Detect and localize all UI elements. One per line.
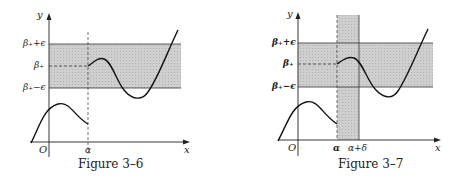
band-lower-label: β₊−ϵ [272,82,296,91]
band-upper-label: β₊+ϵ [23,39,46,48]
curve-left-piece [31,104,88,143]
figure-caption: Figure 3–7 [338,158,404,170]
delta-strip [337,15,359,140]
origin-label: O [288,143,296,153]
alpha-label: α [333,144,340,153]
band-middle-label: β₊ [34,61,44,70]
alpha-plus-delta-label: α+δ [348,144,367,153]
epsilon-band [298,43,433,87]
origin-label: O [39,145,47,155]
band-lower-label: β₊−ϵ [23,83,46,92]
alpha-label: α [85,146,91,155]
band-middle-label: β₊ [283,59,294,68]
figure-caption: Figure 3–6 [78,158,144,170]
x-axis-label: x [435,143,441,153]
y-axis-arrow-icon [296,12,301,19]
band-upper-label: β₊+ϵ [272,38,296,47]
curve-left-piece [278,102,337,141]
figure-3-7-plot [278,12,441,156]
figure-3-6-plot [30,13,190,157]
y-axis-arrow-icon [47,13,52,20]
figures-canvas [0,0,463,181]
y-axis-label: y [37,10,43,20]
y-axis-label: y [287,9,293,19]
x-axis-label: x [184,145,190,155]
